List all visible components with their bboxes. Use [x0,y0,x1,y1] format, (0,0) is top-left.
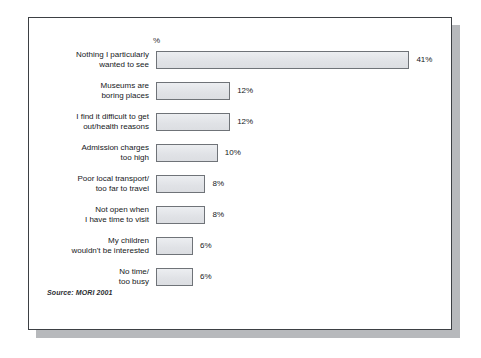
bar [156,268,193,286]
bar [156,113,230,131]
bar [156,175,205,193]
bar-track: 10% [156,144,447,164]
chart-screenshot: % Nothing I particularly wanted to see 4… [0,0,481,358]
axis-unit-label: % [153,36,160,46]
bar-value-label: 10% [225,148,241,157]
bar-row: My children wouldn't be interested 6% [29,236,451,267]
chart-frame: % Nothing I particularly wanted to see 4… [28,17,452,330]
bar-row: I find it difficult to get out/health re… [29,112,451,143]
bar-category-label: Not open when I have time to visit [0,205,149,224]
bar [156,206,205,224]
bar-value-label: 6% [200,241,212,250]
bar-track: 8% [156,206,447,226]
bar-row: Not open when I have time to visit 8% [29,205,451,236]
bar-value-label: 8% [212,210,224,219]
bar-value-label: 12% [237,86,253,95]
bar-row: Admission charges too high 10% [29,143,451,174]
bar-category-label: My children wouldn't be interested [0,236,149,255]
bar-row: Poor local transport/ too far to travel … [29,174,451,205]
source-note: Source: MORI 2001 [47,289,113,296]
bar-track: 12% [156,113,447,133]
bar [156,237,193,255]
bar-track: 41% [156,51,447,71]
bar-value-label: 6% [200,272,212,281]
bar [156,82,230,100]
bar [156,51,409,69]
bar-track: 8% [156,175,447,195]
bar-category-label: Museums are boring places [0,81,149,100]
bar-value-label: 8% [212,179,224,188]
bar-category-label: No time/ too busy [0,267,149,286]
bar-category-label: Nothing I particularly wanted to see [0,50,149,69]
bar-track: 6% [156,237,447,257]
bar-row: Museums are boring places 12% [29,81,451,112]
bar-track: 6% [156,268,447,288]
bar [156,144,218,162]
bar-row: Nothing I particularly wanted to see 41% [29,50,451,81]
bar-value-label: 41% [416,55,432,64]
bar-category-label: I find it difficult to get out/health re… [0,112,149,131]
bar-value-label: 12% [237,117,253,126]
plot-area: % Nothing I particularly wanted to see 4… [29,18,451,329]
bar-category-label: Poor local transport/ too far to travel [0,174,149,193]
bar-track: 12% [156,82,447,102]
bar-category-label: Admission charges too high [0,143,149,162]
bar-rows: Nothing I particularly wanted to see 41%… [29,50,451,298]
